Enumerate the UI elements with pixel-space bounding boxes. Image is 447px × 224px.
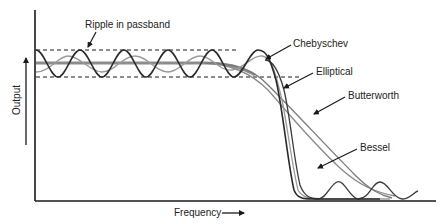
ripple-annotation-label: Ripple in passband [85,19,170,30]
elliptical-curve [265,60,418,199]
chebyschev-label: Chebyschev [293,38,348,49]
elliptical-pointer-arrow-icon [284,73,313,88]
bessel-curve [205,63,395,196]
chebyschev-pointer-arrow-icon [266,45,291,59]
butterworth-label: Butterworth [348,90,399,101]
ripple-pointer-arrow-icon [88,32,96,47]
butterworth-pointer-arrow-icon [314,97,345,114]
x-axis-label: Frequency [174,207,221,218]
y-axis-label: Output [11,85,22,115]
filter-response-diagram: Output Frequency Ripple in passband Cheb… [0,0,447,224]
elliptical-label: Elliptical [316,66,353,77]
bessel-label: Bessel [360,142,390,153]
